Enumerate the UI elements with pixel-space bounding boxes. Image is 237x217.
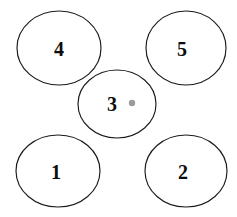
node-label-3: 3 — [107, 93, 117, 115]
node-label-4: 4 — [54, 38, 64, 60]
diagram-canvas: 4 5 3 1 2 — [0, 0, 237, 217]
node-group-2[interactable]: 2 — [145, 135, 227, 207]
marker-dot-icon — [129, 100, 135, 106]
node-label-5: 5 — [177, 38, 187, 60]
node-group-5[interactable]: 5 — [146, 11, 226, 85]
node-label-2: 2 — [178, 161, 188, 183]
node-circle-3[interactable] — [78, 70, 156, 138]
node-group-4[interactable]: 4 — [17, 11, 101, 85]
node-label-1: 1 — [51, 161, 61, 183]
node-cluster-diagram: 4 5 3 1 2 — [0, 0, 237, 217]
node-group-1[interactable]: 1 — [16, 135, 100, 207]
node-group-3[interactable]: 3 — [78, 70, 156, 138]
